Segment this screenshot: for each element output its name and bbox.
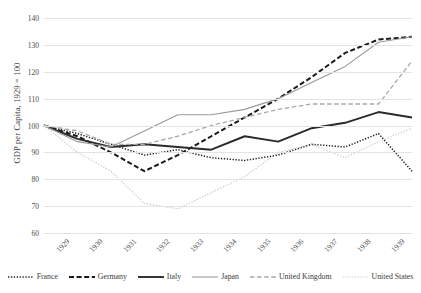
x-axis-tick-label: 1936 bbox=[289, 237, 306, 254]
y-axis-tick-label: 130 bbox=[28, 40, 39, 49]
plot-area: 6070809010011012013014019291930193119321… bbox=[44, 18, 412, 233]
x-axis-tick-label: 1932 bbox=[155, 237, 172, 254]
legend-label: Germany bbox=[98, 272, 127, 281]
x-axis-tick-label: 1937 bbox=[322, 237, 339, 254]
y-axis-tick-label: 90 bbox=[32, 148, 40, 157]
x-axis-tick-label: 1938 bbox=[355, 237, 372, 254]
gridline bbox=[44, 152, 412, 153]
legend-label: United Kingdom bbox=[279, 272, 332, 281]
legend-swatch-icon bbox=[250, 273, 276, 281]
series-line-united-kingdom bbox=[44, 61, 412, 144]
legend-item-france[interactable]: France bbox=[8, 272, 58, 281]
y-axis-tick-label: 60 bbox=[32, 229, 40, 238]
legend-item-germany[interactable]: Germany bbox=[69, 272, 127, 281]
gridline bbox=[44, 206, 412, 207]
gridline bbox=[44, 126, 412, 127]
gdp-per-capita-line-chart: GDP per Capita, 1929 = 100 6070809010011… bbox=[0, 0, 421, 293]
x-axis-tick-label: 1935 bbox=[255, 237, 272, 254]
x-axis-tick-label: 1929 bbox=[54, 237, 71, 254]
y-axis-tick-label: 70 bbox=[32, 202, 40, 211]
gridline bbox=[44, 179, 412, 180]
series-line-italy bbox=[44, 112, 412, 150]
y-axis-tick-label: 80 bbox=[32, 175, 40, 184]
x-axis-tick-label: 1934 bbox=[222, 237, 239, 254]
x-axis-tick-label: 1930 bbox=[88, 237, 105, 254]
legend-label: Italy bbox=[167, 272, 181, 281]
y-axis-title: GDP per Capita, 1929 = 100 bbox=[12, 38, 22, 188]
gridline bbox=[44, 18, 412, 19]
legend-item-united-kingdom[interactable]: United Kingdom bbox=[250, 272, 332, 281]
legend-item-united-states[interactable]: United States bbox=[343, 272, 414, 281]
x-axis-tick-label: 1939 bbox=[389, 237, 406, 254]
legend-swatch-icon bbox=[138, 273, 164, 281]
legend-label: United States bbox=[372, 272, 414, 281]
legend-label: Japan bbox=[221, 272, 239, 281]
gridline bbox=[44, 99, 412, 100]
y-axis-tick-label: 110 bbox=[28, 94, 39, 103]
x-axis-tick-label: 1931 bbox=[121, 237, 138, 254]
legend-item-italy[interactable]: Italy bbox=[138, 272, 181, 281]
gridline bbox=[44, 233, 412, 234]
y-axis-tick-label: 140 bbox=[28, 14, 39, 23]
x-axis-tick-label: 1933 bbox=[188, 237, 205, 254]
gridline bbox=[44, 72, 412, 73]
series-line-japan bbox=[44, 37, 412, 147]
series-line-united-states bbox=[44, 126, 412, 209]
legend-swatch-icon bbox=[343, 273, 369, 281]
gridline bbox=[44, 45, 412, 46]
legend-swatch-icon bbox=[69, 273, 95, 281]
legend-label: France bbox=[37, 272, 58, 281]
legend-item-japan[interactable]: Japan bbox=[192, 272, 239, 281]
legend-swatch-icon bbox=[8, 273, 34, 281]
y-axis-tick-label: 100 bbox=[28, 121, 39, 130]
chart-legend: FranceGermanyItalyJapanUnited KingdomUni… bbox=[0, 272, 421, 281]
y-axis-tick-label: 120 bbox=[28, 67, 39, 76]
legend-swatch-icon bbox=[192, 273, 218, 281]
